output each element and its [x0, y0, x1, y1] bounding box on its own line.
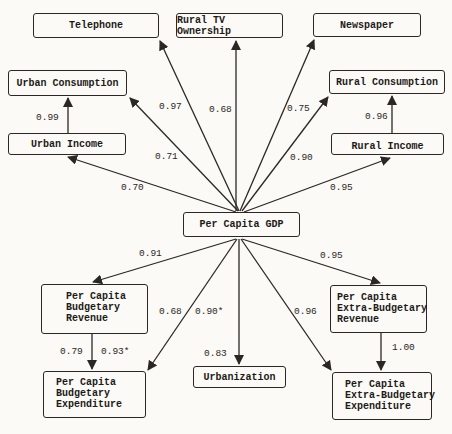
edge-gdp-rural-income: [244, 158, 390, 212]
edge-gdp-extra-expenditure: [241, 239, 331, 370]
node-label-line: Per Capita: [345, 379, 431, 390]
node-label: Rural Income: [351, 141, 423, 152]
edge-label-gdp-budget-revenue: 0.91: [139, 248, 162, 259]
node-extra-budgetary-revenue: Per Capita Extra-Budgetary Revenue: [330, 285, 427, 333]
node-urban-income: Urban Income: [8, 133, 126, 155]
edge-label-gdp-rural-tv: 0.68: [209, 104, 232, 115]
edge-label-budget-rev-exp-alt: 0.93*: [101, 346, 130, 357]
node-label: Newspaper: [340, 20, 394, 31]
edge-label-gdp-rural-consumption: 0.90: [290, 152, 313, 163]
node-label-line: Revenue: [337, 314, 426, 325]
node-urbanization: Urbanization: [193, 366, 286, 388]
edge-gdp-urban-income: [68, 157, 236, 212]
node-rural-tv-ownership: Rural TV Ownership: [176, 13, 283, 38]
node-label-line: Expenditure: [56, 399, 145, 410]
edge-label-rural-income-consumption: 0.96: [365, 111, 388, 122]
edge-gdp-telephone: [160, 41, 239, 211]
edge-gdp-rural-consumption: [242, 97, 328, 211]
node-label-line: Per Capita: [66, 291, 147, 302]
node-label-line: Budgetary: [66, 302, 147, 313]
edge-label-extra-rev-exp: 1.00: [392, 342, 415, 353]
edge-label-gdp-urban-income: 0.70: [121, 182, 144, 193]
edge-label-gdp-rural-income: 0.95: [330, 182, 353, 193]
node-newspaper: Newspaper: [313, 13, 421, 37]
node-label-line: Revenue: [66, 313, 147, 324]
node-label-line: Budgetary: [56, 388, 145, 399]
edge-label-gdp-extra-revenue: 0.95: [320, 250, 343, 261]
node-label: Rural Consumption: [336, 77, 438, 88]
edge-gdp-extra-revenue: [242, 239, 380, 283]
edge-gdp-budget-revenue: [93, 239, 236, 282]
edge-label-gdp-urban-consumption: 0.71: [155, 151, 178, 162]
node-per-capita-gdp: Per Capita GDP: [183, 212, 300, 237]
node-label: Per Capita GDP: [199, 219, 283, 230]
node-rural-income: Rural Income: [331, 133, 444, 155]
node-label-line: Per Capita: [337, 292, 426, 303]
node-label: Telephone: [69, 20, 123, 31]
node-rural-consumption: Rural Consumption: [329, 70, 445, 94]
edge-label-gdp-telephone: 0.97: [159, 101, 182, 112]
node-label-line: Extra-Budgetary: [337, 303, 426, 314]
node-label-line: Expenditure: [345, 401, 431, 412]
node-label: Urbanization: [203, 372, 275, 383]
edge-label-gdp-urbanization: 0.83: [204, 348, 227, 359]
node-label-line: Per Capita: [56, 377, 145, 388]
node-budgetary-revenue: Per Capita Budgetary Revenue: [41, 284, 148, 334]
edge-label-gdp-newspaper: 0.75: [287, 103, 310, 114]
node-label: Urban Income: [31, 139, 103, 150]
edge-label-gdp-extra-expenditure: 0.96: [294, 306, 317, 317]
node-label-line: Extra-Budgetary: [345, 390, 431, 401]
edge-label-urban-income-consumption: 0.99: [36, 112, 59, 123]
node-urban-consumption: Urban Consumption: [8, 70, 127, 96]
node-budgetary-expenditure: Per Capita Budgetary Expenditure: [43, 371, 146, 418]
edge-label-gdp-budget-expenditure: 0.68: [159, 306, 182, 317]
node-telephone: Telephone: [33, 13, 159, 38]
node-label: Rural TV Ownership: [177, 15, 282, 37]
node-label: Urban Consumption: [16, 78, 118, 89]
edge-gdp-newspaper: [240, 40, 314, 211]
edge-label-budget-rev-exp: 0.79: [60, 346, 83, 357]
edge-label-gdp-budget-expenditure-alt: 0.90*: [195, 306, 224, 317]
node-extra-budgetary-expenditure: Per Capita Extra-Budgetary Expenditure: [332, 372, 432, 420]
